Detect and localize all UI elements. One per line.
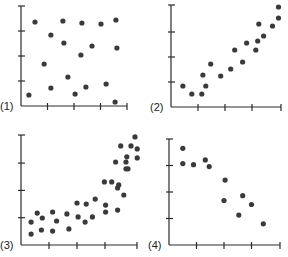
data-point xyxy=(270,23,275,28)
data-point xyxy=(203,157,208,162)
data-point xyxy=(73,91,78,96)
panel-label: (4) xyxy=(148,239,161,251)
scatter-panel-3: (3) xyxy=(0,134,140,251)
data-point xyxy=(60,18,65,23)
data-point xyxy=(113,159,118,164)
data-point xyxy=(223,178,228,183)
data-point xyxy=(199,91,204,96)
data-point xyxy=(48,85,53,90)
data-point xyxy=(84,202,89,207)
data-point xyxy=(61,40,66,45)
data-point xyxy=(132,134,137,139)
data-point xyxy=(29,220,34,225)
data-point xyxy=(104,81,109,86)
data-point xyxy=(78,52,83,57)
data-point xyxy=(180,161,185,166)
data-point xyxy=(240,59,245,64)
data-point xyxy=(244,40,249,45)
scatter-panel-1: (1) xyxy=(0,6,127,112)
data-point xyxy=(203,83,208,88)
data-point xyxy=(121,192,126,197)
data-point xyxy=(249,202,254,207)
data-point xyxy=(123,159,128,164)
data-point xyxy=(232,47,237,52)
data-point xyxy=(54,218,59,223)
data-point xyxy=(191,162,196,167)
data-point xyxy=(98,21,103,26)
data-point xyxy=(29,232,34,237)
data-point xyxy=(76,214,81,219)
data-point xyxy=(276,15,281,20)
data-point xyxy=(115,208,120,213)
data-point xyxy=(189,91,194,96)
data-point xyxy=(109,179,114,184)
data-point xyxy=(236,213,241,218)
data-point xyxy=(118,143,123,148)
data-point xyxy=(79,20,84,25)
data-point xyxy=(26,92,31,97)
data-point xyxy=(135,146,140,151)
data-point xyxy=(218,73,223,78)
panel-label: (3) xyxy=(0,239,13,251)
data-point xyxy=(255,38,260,43)
data-point xyxy=(261,33,266,38)
data-point xyxy=(93,197,98,202)
data-point xyxy=(103,203,108,208)
data-point xyxy=(208,61,213,66)
data-point xyxy=(50,229,55,234)
data-point xyxy=(256,21,261,26)
data-point xyxy=(102,179,107,184)
data-point xyxy=(114,45,119,50)
data-point xyxy=(66,226,71,231)
scatter-plot-grid: (1) (2) (3) (4) xyxy=(0,0,288,257)
data-point xyxy=(113,17,118,22)
data-point xyxy=(180,146,185,151)
data-point xyxy=(90,214,95,219)
data-point xyxy=(42,61,47,66)
data-point xyxy=(74,200,79,205)
data-point xyxy=(32,19,37,24)
data-point xyxy=(128,143,133,148)
data-point xyxy=(123,166,128,171)
panel-label: (1) xyxy=(0,100,13,112)
data-point xyxy=(65,74,70,79)
data-point xyxy=(113,99,118,104)
data-point xyxy=(116,182,121,187)
data-point xyxy=(50,209,55,214)
data-point xyxy=(35,211,40,216)
data-point xyxy=(240,193,245,198)
data-point xyxy=(83,84,88,89)
panel-label: (2) xyxy=(150,101,163,113)
data-point xyxy=(83,220,88,225)
data-point xyxy=(40,215,45,220)
data-point xyxy=(207,164,212,169)
data-point xyxy=(253,47,258,52)
data-point xyxy=(103,209,108,214)
data-point xyxy=(221,198,226,203)
data-point xyxy=(64,211,69,216)
data-point xyxy=(89,43,94,48)
data-point xyxy=(276,4,281,9)
scatter-panel-2: (2) xyxy=(150,4,281,113)
data-point xyxy=(228,66,233,71)
data-point xyxy=(48,32,53,37)
data-point xyxy=(200,72,205,77)
data-point xyxy=(39,227,44,232)
data-point xyxy=(180,83,185,88)
data-point xyxy=(124,154,129,159)
data-point xyxy=(135,155,140,160)
data-point xyxy=(261,221,266,226)
scatter-panel-4: (4) xyxy=(148,139,280,251)
